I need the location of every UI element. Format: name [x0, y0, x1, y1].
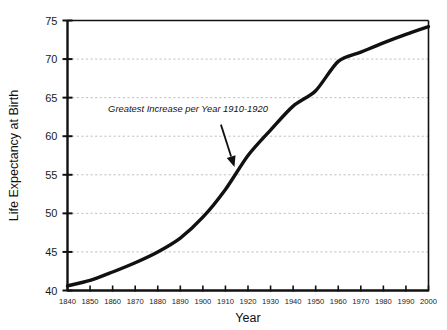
y-tick-label: 65: [45, 92, 57, 104]
x-tick-label: 1880: [149, 297, 166, 306]
x-tick-label: 1940: [285, 297, 302, 306]
x-tick-label: 1960: [330, 297, 347, 306]
x-tick-label: 1920: [240, 297, 257, 306]
y-tick-label: 60: [45, 130, 57, 142]
y-tick-label: 50: [45, 207, 57, 219]
y-tick-label: 45: [45, 246, 57, 258]
x-tick-label: 1970: [352, 297, 369, 306]
x-tick-label: 1890: [172, 297, 189, 306]
x-axis-title: Year: [235, 311, 260, 325]
chart-container: 4045505560657075 18401850186018701880189…: [0, 0, 447, 330]
y-axis-title: Life Expectancy at Birth: [7, 90, 21, 221]
y-tick-label: 70: [45, 53, 57, 65]
x-tick-label: 1980: [375, 297, 392, 306]
x-tick-label: 1930: [262, 297, 279, 306]
x-tick-label: 1860: [104, 297, 121, 306]
x-tick-label: 1990: [397, 297, 414, 306]
y-tick-label: 75: [45, 15, 57, 27]
x-tick-label: 1900: [194, 297, 211, 306]
y-tick-label: 40: [45, 285, 57, 297]
x-tick-label: 2000: [420, 297, 437, 306]
life-expectancy-line-chart: 4045505560657075 18401850186018701880189…: [0, 0, 447, 330]
x-tick-label: 1840: [59, 297, 76, 306]
x-tick-label: 1910: [217, 297, 234, 306]
x-tick-label: 1950: [307, 297, 324, 306]
x-tick-label: 1850: [82, 297, 99, 306]
y-tick-label: 55: [45, 169, 57, 181]
x-axis-tick-labels: 1840185018601870188018901900191019201930…: [59, 297, 437, 306]
x-tick-label: 1870: [127, 297, 144, 306]
annotation-label: Greatest Increase per Year 1910-1920: [108, 103, 269, 114]
